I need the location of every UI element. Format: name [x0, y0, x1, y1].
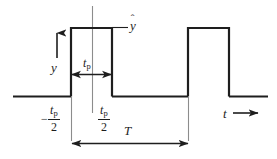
- pulse-train-figure: y ˆy t T tp − tp 2 tp 2: [0, 0, 277, 159]
- negative-half-width-label: − tp 2: [48, 104, 60, 134]
- fraction-denominator: 2: [98, 121, 110, 134]
- minus-sign: −: [41, 112, 48, 127]
- numerator-subscript: p: [104, 108, 108, 118]
- pulse-rectangle-first: [71, 28, 112, 97]
- fraction-numerator: tp: [98, 104, 110, 118]
- numerator-subscript: p: [54, 108, 58, 118]
- pulse-width-subscript: p: [87, 61, 91, 71]
- fraction-denominator: 2: [48, 121, 60, 134]
- amplitude-label: ˆy: [130, 19, 136, 32]
- numerator-letter: t: [100, 103, 103, 117]
- positive-half-width-label: tp 2: [98, 104, 110, 134]
- y-axis-label: y: [51, 61, 57, 74]
- period-label: T: [124, 124, 131, 137]
- pulse-width-letter: t: [83, 56, 86, 70]
- fraction-numerator: tp: [48, 104, 60, 118]
- numerator-letter: t: [50, 103, 53, 117]
- pulse-train-diagram: [0, 0, 277, 159]
- hat-accent: ˆ: [131, 13, 135, 24]
- pulse-rectangle-second: [188, 28, 229, 97]
- pulse-width-label: tp: [83, 57, 91, 71]
- t-axis-label: t: [223, 107, 227, 120]
